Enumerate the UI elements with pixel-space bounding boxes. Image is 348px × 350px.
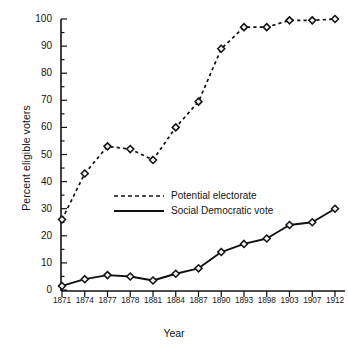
legend-item-label: Potential electorate — [171, 190, 257, 201]
data-point-marker — [150, 156, 157, 163]
y-axis-tick-label: 70 — [26, 95, 52, 105]
x-axis-tick-label: 1878 — [118, 296, 142, 305]
y-axis-tick-label: 40 — [26, 177, 52, 187]
y-axis-tick-label: 50 — [26, 150, 52, 160]
x-axis-tick-label: 1898 — [255, 296, 279, 305]
x-axis-title: Year — [0, 327, 348, 339]
data-point-marker — [127, 146, 134, 153]
data-point-marker — [286, 17, 293, 24]
data-point-marker — [309, 17, 316, 24]
series-social-democratic-vote — [59, 205, 339, 289]
y-axis-tick-label: 0 — [26, 285, 52, 295]
y-axis-ticks — [61, 19, 67, 290]
y-axis-tick-label: 20 — [26, 231, 52, 241]
x-axis-tick-label: 1890 — [209, 296, 233, 305]
y-axis-tick-label: 80 — [26, 68, 52, 78]
data-point-marker — [172, 270, 179, 277]
x-axis-tick-label: 1903 — [278, 296, 302, 305]
y-axis-tick-label: 10 — [26, 258, 52, 268]
x-axis-tick-label: 1912 — [323, 296, 347, 305]
x-axis-tick-label: 1877 — [96, 296, 120, 305]
x-axis-tick-label: 1887 — [187, 296, 211, 305]
data-point-marker — [263, 24, 270, 31]
x-axis-tick-label: 1907 — [300, 296, 324, 305]
data-point-marker — [81, 170, 88, 177]
data-point-marker — [150, 277, 157, 284]
y-axis-tick-label: 60 — [26, 122, 52, 132]
data-point-marker — [172, 124, 179, 131]
y-axis-tick-label: 30 — [26, 204, 52, 214]
data-point-marker — [127, 273, 134, 280]
x-axis-tick-label: 1884 — [164, 296, 188, 305]
chart-figure: Percent eligible voters Year 01020304050… — [0, 0, 348, 350]
data-point-marker — [59, 282, 66, 289]
chart-legend — [114, 196, 164, 211]
y-axis-tick-label: 90 — [26, 41, 52, 51]
x-axis-tick-label: 1874 — [73, 296, 97, 305]
axis-lines — [61, 19, 345, 291]
x-axis-tick-label: 1871 — [50, 296, 74, 305]
data-series-layer — [59, 16, 339, 290]
data-point-marker — [241, 240, 248, 247]
data-point-marker — [81, 276, 88, 283]
data-point-marker — [332, 16, 339, 23]
data-point-marker — [104, 272, 111, 279]
legend-item-label: Social Democratic vote — [171, 205, 273, 216]
y-axis-tick-label: 100 — [26, 14, 52, 24]
x-axis-tick-label: 1893 — [232, 296, 256, 305]
x-axis-tick-label: 1881 — [141, 296, 165, 305]
